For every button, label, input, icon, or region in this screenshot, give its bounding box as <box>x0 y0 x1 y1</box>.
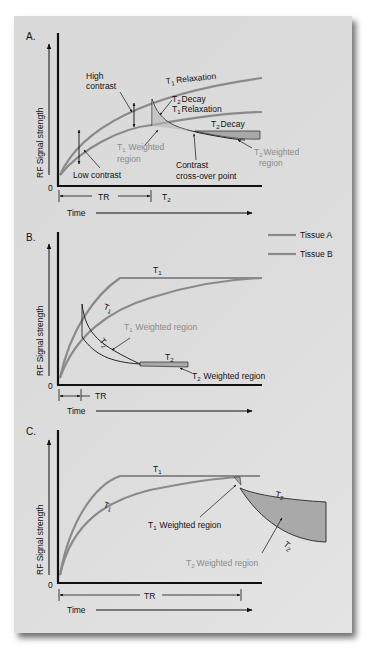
panel-a: A. RF Signal strength 0 T1Relaxation T2D… <box>26 31 300 218</box>
panel-b-letter: B. <box>26 232 35 243</box>
crossover-pointer <box>194 134 196 160</box>
tr-label: TR <box>98 192 109 202</box>
time-label: Time <box>67 605 86 615</box>
crossover-label-1: Contrast <box>176 160 209 170</box>
t1-weighted-pointer <box>200 485 236 517</box>
t2-shade-label: T2 <box>165 352 174 363</box>
t2-decay-lower-label: T2Decay <box>211 119 245 130</box>
crossover-label-2: cross-over point <box>176 171 237 181</box>
t1-weighted-label-2: region <box>117 154 141 164</box>
tr-label: TR <box>95 391 106 401</box>
tissue-a-t2-decay <box>82 304 160 364</box>
t2-weighted-pointer <box>238 140 252 148</box>
t2-decay-label: T2 <box>97 336 111 350</box>
mri-contrast-diagram: A. RF Signal strength 0 T1Relaxation T2D… <box>0 0 373 649</box>
t1-relaxation-top-label: T1Relaxation <box>165 71 217 87</box>
t2-decay-pointer <box>160 100 172 115</box>
t1-weighted-pointer <box>112 338 130 350</box>
y-axis-label: RF Signal strength <box>35 305 45 376</box>
high-contrast-label-1: High <box>86 71 104 81</box>
panel-a-letter: A. <box>26 31 35 42</box>
panel-c-letter: C. <box>26 426 36 437</box>
tissue-b-t1-label: T1 <box>102 301 114 314</box>
t1-weighted-label-1: T1Weighted <box>117 142 165 153</box>
tr-label: TR <box>144 591 155 601</box>
origin-label: 0 <box>48 580 53 590</box>
low-contrast-label: Low contrast <box>73 170 122 180</box>
high-contrast-label-2: contrast <box>86 81 117 91</box>
t2-axis-label: T2 <box>162 192 171 203</box>
origin-label: 0 <box>48 183 53 193</box>
t1-weighted-label: T1Weighted region <box>148 520 222 531</box>
t2-weighted-label-1: T2Weighted <box>254 147 300 158</box>
t2-weighted-pointer <box>180 368 192 373</box>
t2-weighted-label: T2Weighted region <box>186 558 259 569</box>
tissue-a-t1-label: T1 <box>153 464 162 475</box>
y-axis-label: RF Signal strength <box>35 504 45 575</box>
y-axis-label: RF Signal strength <box>35 107 45 178</box>
low-contrast-pointer <box>84 150 100 168</box>
tissue-b-t1-label: T1 <box>102 499 114 512</box>
legend-tissue-a-label: Tissue A <box>300 230 333 240</box>
panel-c: C. RF Signal strength 0 T1 T1 T2 T2 T1We… <box>26 426 326 615</box>
time-label: Time <box>67 406 86 416</box>
t1-relaxation-mid-label: T1Relaxation <box>172 104 222 115</box>
origin-label: 0 <box>48 381 53 391</box>
legend-tissue-b-label: Tissue B <box>300 249 333 259</box>
time-label: Time <box>67 208 86 218</box>
high-contrast-pointer <box>120 92 132 112</box>
t2-weighted-shade <box>140 362 188 367</box>
t2-weighted-label-2: region <box>259 158 283 168</box>
t2-weighted-label: T2Weighted region <box>192 371 266 382</box>
panel-b: B. Tissue A Tissue B RF Signal strength … <box>26 230 333 416</box>
tissue-a-t1-label: T1 <box>153 265 162 276</box>
t1-weighted-shade <box>234 477 241 485</box>
t1-weighted-label: T1Weighted region <box>124 322 198 333</box>
t2-lower-label: T2 <box>281 539 295 553</box>
